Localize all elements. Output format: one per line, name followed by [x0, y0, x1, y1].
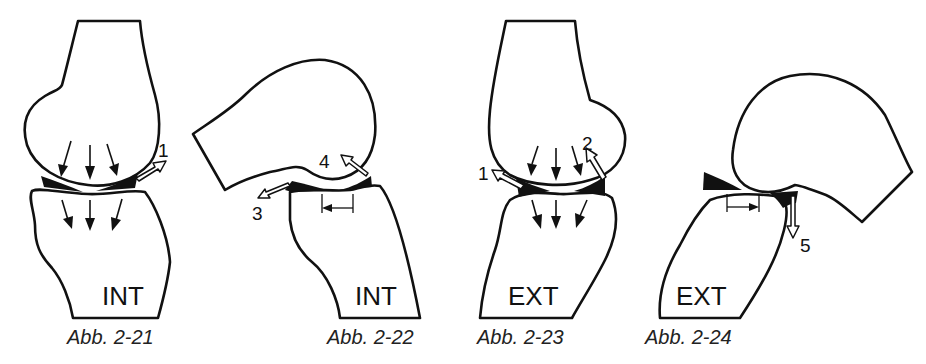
panel-abb-2-23: 1 2 EXT [478, 21, 625, 318]
label-5: 5 [800, 235, 811, 256]
caption-abb-2-23: Abb. 2-23 [477, 326, 564, 349]
panel-abb-2-24: 5 EXT [660, 74, 912, 318]
femur [25, 21, 159, 186]
meniscus-posterior [285, 181, 330, 192]
panel-abb-2-21: 1 INT [25, 21, 170, 318]
caption-abb-2-21: Abb. 2-21 [67, 326, 154, 349]
caption-abb-2-22: Abb. 2-22 [327, 326, 414, 349]
label-4: 4 [319, 151, 330, 172]
compartment-label-ext: EXT [508, 281, 559, 311]
label-3: 3 [252, 203, 263, 224]
compartment-label-int: INT [102, 281, 144, 311]
knee-diagrams: 1 INT 3 4 INT 1 [0, 0, 926, 364]
label-1: 1 [478, 163, 489, 184]
compartment-label-int: INT [355, 281, 397, 311]
label-1: 1 [158, 140, 169, 161]
panel-abb-2-22: 3 4 INT [193, 60, 420, 318]
label-2: 2 [582, 133, 593, 154]
femur [489, 21, 625, 185]
shift-arrow-3 [258, 183, 290, 198]
figure-stage: 1 INT 3 4 INT 1 [0, 0, 926, 364]
femur [193, 60, 375, 190]
tibia [31, 190, 170, 318]
caption-abb-2-24: Abb. 2-24 [645, 326, 732, 349]
compartment-label-ext: EXT [676, 281, 727, 311]
